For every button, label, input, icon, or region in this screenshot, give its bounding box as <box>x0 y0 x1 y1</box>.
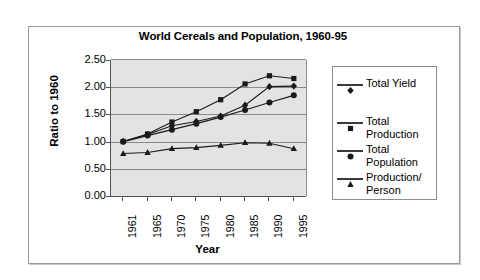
data-point-square <box>348 126 353 131</box>
data-point-circle <box>120 139 126 145</box>
x-tick-mark <box>220 196 221 201</box>
data-point-square <box>194 109 199 114</box>
legend-item[interactable]: Total Production <box>337 115 435 140</box>
x-tick-label: 1995 <box>298 198 309 238</box>
data-point-circle <box>242 107 248 113</box>
legend-label: Production/ Person <box>366 171 435 196</box>
y-tick-label: 1.00 <box>72 136 106 147</box>
data-point-square <box>218 97 223 102</box>
legend-marker-diamond <box>346 86 355 95</box>
series-layer <box>111 60 306 196</box>
legend-key <box>337 173 363 185</box>
legend-item[interactable]: Production/ Person <box>337 171 435 196</box>
y-tick-label: 0.50 <box>72 163 106 174</box>
y-tick-label: 2.50 <box>72 54 106 65</box>
x-axis-title: Year <box>110 243 305 255</box>
data-point-circle <box>218 114 224 120</box>
plot-area <box>110 60 306 197</box>
data-point-diamond <box>266 83 272 90</box>
data-point-circle <box>145 133 151 139</box>
data-point-diamond <box>347 87 353 94</box>
legend-marker-square <box>346 124 355 133</box>
legend-marker-triangle <box>346 180 355 189</box>
plot-right-edge <box>306 60 307 196</box>
data-point-circle <box>193 121 199 127</box>
legend-marker <box>346 81 355 99</box>
x-tick-label: 1975 <box>200 198 211 238</box>
x-tick-label: 1990 <box>273 198 284 238</box>
y-tick-label: 1.50 <box>72 108 106 119</box>
legend-key <box>337 145 363 157</box>
data-point-triangle <box>347 181 353 187</box>
x-tick-mark <box>244 196 245 201</box>
x-tick-label: 1965 <box>152 198 163 238</box>
x-tick-mark <box>122 196 123 201</box>
data-point-square <box>291 76 296 81</box>
legend-key <box>337 79 363 91</box>
x-tick-label: 1961 <box>127 198 138 238</box>
x-tick-mark <box>171 196 172 201</box>
data-point-circle <box>348 154 354 160</box>
y-axis-tick-labels: 2.502.001.501.000.500.00 <box>66 0 106 280</box>
y-axis-title: Ratio to 1960 <box>48 51 60 171</box>
legend-label: Total Population <box>366 143 435 168</box>
chart-legend: Total YieldTotal ProductionTotal Populat… <box>332 66 437 200</box>
x-tick-label: 1970 <box>176 198 187 238</box>
x-tick-mark <box>293 196 294 201</box>
x-tick-label: 1980 <box>225 198 236 238</box>
data-point-square <box>169 119 174 124</box>
data-point-square <box>267 73 272 78</box>
x-tick-label: 1985 <box>249 198 260 238</box>
data-point-circle <box>266 99 272 105</box>
x-tick-mark <box>268 196 269 201</box>
legend-key <box>337 117 363 129</box>
data-point-square <box>242 81 247 86</box>
x-tick-mark <box>147 196 148 201</box>
legend-marker <box>346 147 355 165</box>
y-tick-label: 0.00 <box>72 190 106 201</box>
legend-item[interactable]: Total Population <box>337 143 435 168</box>
legend-label: Total Production <box>366 115 435 140</box>
data-point-circle <box>291 92 297 98</box>
legend-item[interactable]: Total Yield <box>337 77 435 91</box>
y-tick-label: 2.00 <box>72 81 106 92</box>
data-point-diamond <box>291 83 297 90</box>
legend-marker <box>346 175 355 193</box>
data-point-circle <box>169 127 175 133</box>
legend-marker-circle <box>346 152 355 161</box>
legend-marker <box>346 119 355 137</box>
legend-label: Total Yield <box>366 77 416 90</box>
x-tick-mark <box>195 196 196 201</box>
